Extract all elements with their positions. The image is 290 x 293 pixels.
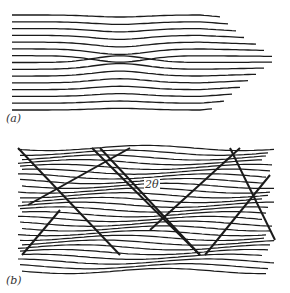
lattice-line <box>12 35 244 39</box>
angle-annotation: 2θ <box>144 178 160 191</box>
lattice-line <box>12 49 264 55</box>
lattice-line <box>18 231 266 236</box>
panel-b-lattice <box>18 145 275 273</box>
lattice-line <box>12 42 256 47</box>
lattice-line <box>12 108 212 110</box>
lattice-line <box>12 29 236 32</box>
lattice-line <box>12 56 272 63</box>
lattice-line <box>12 22 228 25</box>
lattice-line <box>22 268 266 273</box>
lattice-line <box>12 79 248 83</box>
dislocation-wall <box>230 148 275 240</box>
lattice-line <box>12 56 272 62</box>
lattice-line <box>22 240 274 245</box>
lattice-line <box>20 179 264 184</box>
lattice-line <box>12 94 232 97</box>
panel-b-label: (b) <box>6 274 22 287</box>
figure-canvas <box>0 0 290 293</box>
lattice-line <box>18 145 274 150</box>
lattice-line <box>12 101 224 103</box>
lattice-line <box>12 71 256 76</box>
dislocation-wall <box>28 148 130 205</box>
lattice-line <box>20 221 272 226</box>
lattice-line <box>12 86 240 89</box>
panel-a-label: (a) <box>6 112 21 125</box>
panel-a-lattice <box>12 15 272 110</box>
lattice-line <box>12 64 264 70</box>
lattice-line <box>12 15 220 17</box>
lattice-line <box>20 264 268 269</box>
